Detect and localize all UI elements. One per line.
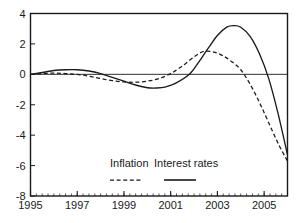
y-tick-label: 4 [19, 8, 25, 20]
x-tick-label: 2001 [158, 199, 182, 211]
y-tick-label: -6 [16, 160, 26, 172]
line-chart: 420-2-4-6-8 199519971999200120032005 Inf… [0, 0, 306, 223]
x-tick-label: 2003 [205, 199, 229, 211]
chart-legend: Inflation Interest rates [110, 157, 219, 180]
y-tick-label: -4 [16, 129, 26, 141]
y-tick-label: 0 [19, 68, 25, 80]
x-tick-label: 2005 [252, 199, 276, 211]
y-tick-label: 2 [19, 38, 25, 50]
x-tick-label: 1999 [112, 199, 136, 211]
legend-label-inflation: Inflation [110, 157, 149, 169]
series-line-inflation [31, 51, 288, 161]
legend-label-interest-rates: Interest rates [154, 157, 219, 169]
chart-figure: 420-2-4-6-8 199519971999200120032005 Inf… [0, 0, 306, 223]
y-tick-label: -2 [16, 99, 26, 111]
y-axis-ticks: 420-2-4-6-8 [16, 8, 35, 203]
x-tick-label: 1997 [65, 199, 89, 211]
series-line-interest-rates [31, 26, 288, 155]
x-tick-label: 1995 [18, 199, 42, 211]
